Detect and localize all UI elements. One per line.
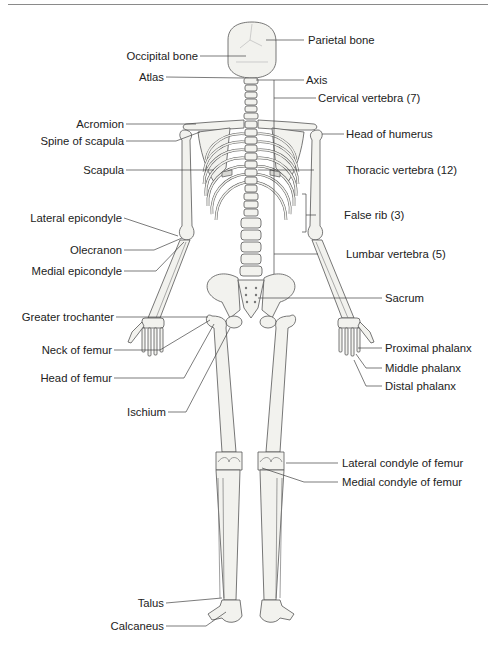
label-atlas: Atlas bbox=[139, 71, 164, 83]
skeleton bbox=[128, 22, 374, 622]
right-ilium bbox=[262, 274, 295, 318]
left-humerus bbox=[179, 130, 194, 240]
label-spine-of-scapula: Spine of scapula bbox=[40, 135, 124, 147]
label-cervical-vertebra: Cervical vertebra (7) bbox=[318, 92, 421, 104]
label-distal-phalanx: Distal phalanx bbox=[385, 380, 456, 392]
label-medial-condyle-of-femur: Medial condyle of femur bbox=[342, 476, 462, 488]
label-acromion: Acromion bbox=[76, 118, 124, 130]
label-head-of-femur: Head of femur bbox=[40, 372, 112, 384]
label-head-of-humerus: Head of humerus bbox=[346, 128, 433, 140]
left-foot bbox=[208, 600, 242, 622]
skeleton-diagram: Occipital bone Atlas Acromion Spine of s… bbox=[0, 0, 494, 648]
left-ulna-line bbox=[156, 242, 186, 318]
skull bbox=[228, 22, 276, 78]
label-neck-of-femur: Neck of femur bbox=[42, 344, 113, 356]
left-clavicle bbox=[183, 120, 244, 130]
right-humerus bbox=[308, 130, 323, 240]
right-clavicle bbox=[258, 120, 317, 130]
left-femur bbox=[206, 315, 236, 452]
label-proximal-phalanx: Proximal phalanx bbox=[385, 342, 472, 354]
label-lateral-epicondyle: Lateral epicondyle bbox=[30, 212, 122, 224]
label-occipital-bone: Occipital bone bbox=[126, 50, 198, 62]
left-forearm bbox=[148, 240, 190, 318]
label-parietal-bone: Parietal bone bbox=[308, 34, 375, 46]
labels-left: Occipital bone Atlas Acromion Spine of s… bbox=[22, 50, 198, 632]
label-medial-epicondyle: Medial epicondyle bbox=[32, 265, 122, 277]
lumbar-spine bbox=[240, 218, 262, 276]
right-hand bbox=[338, 318, 374, 356]
thoracic-spine bbox=[244, 121, 258, 216]
right-obturator bbox=[260, 316, 276, 328]
right-foot bbox=[260, 600, 294, 622]
right-ulna-line bbox=[316, 242, 348, 318]
right-femur bbox=[266, 315, 296, 452]
cervical-spine bbox=[244, 78, 258, 119]
label-greater-trochanter: Greater trochanter bbox=[22, 311, 115, 323]
label-scapula: Scapula bbox=[83, 164, 125, 176]
label-lumbar-vertebra: Lumbar vertebra (5) bbox=[346, 248, 446, 260]
label-lateral-condyle-of-femur: Lateral condyle of femur bbox=[342, 457, 463, 469]
label-ischium: Ischium bbox=[127, 406, 166, 418]
label-thoracic-vertebra: Thoracic vertebra (12) bbox=[346, 164, 457, 176]
left-obturator bbox=[226, 316, 242, 328]
label-sacrum: Sacrum bbox=[385, 292, 424, 304]
label-talus: Talus bbox=[138, 597, 165, 609]
label-false-rib: False rib (3) bbox=[344, 209, 405, 221]
sacrum-bone bbox=[238, 280, 264, 318]
label-middle-phalanx: Middle phalanx bbox=[385, 362, 461, 374]
label-axis: Axis bbox=[306, 74, 328, 86]
label-calcaneus: Calcaneus bbox=[111, 620, 165, 632]
label-olecranon: Olecranon bbox=[70, 244, 122, 256]
left-ilium bbox=[207, 274, 240, 318]
